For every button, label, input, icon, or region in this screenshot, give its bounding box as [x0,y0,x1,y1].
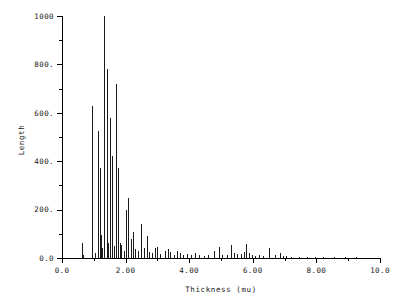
y-tick-label: 400. [34,157,54,166]
spike-plot: 0.0200.400.600.800.1000 0.02.004.006.008… [0,0,406,301]
x-tick-label: 4.00 [179,266,199,275]
x-tick-label: 0.0 [55,266,70,275]
y-axis-title: Length [17,125,26,156]
x-tick-label: 10.0 [370,266,390,275]
x-tick-label: 8.00 [307,266,327,275]
y-tick-label: 600. [34,109,54,118]
plot-background [0,0,406,301]
y-tick-label: 200. [34,205,54,214]
y-tick-label: 0.0 [39,254,54,263]
figure-canvas: 0.0200.400.600.800.1000 0.02.004.006.008… [0,0,406,301]
y-tick-label: 800. [34,60,54,69]
x-tick-label: 2.00 [116,266,136,275]
x-axis-title: Thickness (mu) [185,285,257,294]
x-tick-label: 6.00 [243,266,263,275]
y-tick-label: 1000 [34,12,54,21]
